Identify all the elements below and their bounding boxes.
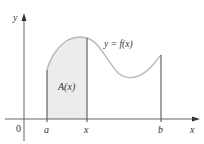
tick-label-b: b bbox=[158, 124, 163, 135]
tick-label-a: a bbox=[44, 124, 49, 135]
x-axis-label: x bbox=[189, 124, 195, 135]
area-label: A(x) bbox=[57, 81, 76, 93]
shaded-area-region bbox=[47, 37, 87, 119]
curve-label: y = f(x) bbox=[103, 39, 133, 50]
y-axis-arrow-icon bbox=[22, 13, 27, 21]
y-axis-label: y bbox=[12, 12, 18, 23]
origin-label: 0 bbox=[16, 123, 21, 134]
area-function-diagram: y x 0 a x b y = f(x) A(x) bbox=[0, 0, 204, 144]
tick-label-x: x bbox=[83, 124, 89, 135]
x-axis-arrow-icon bbox=[192, 117, 200, 122]
